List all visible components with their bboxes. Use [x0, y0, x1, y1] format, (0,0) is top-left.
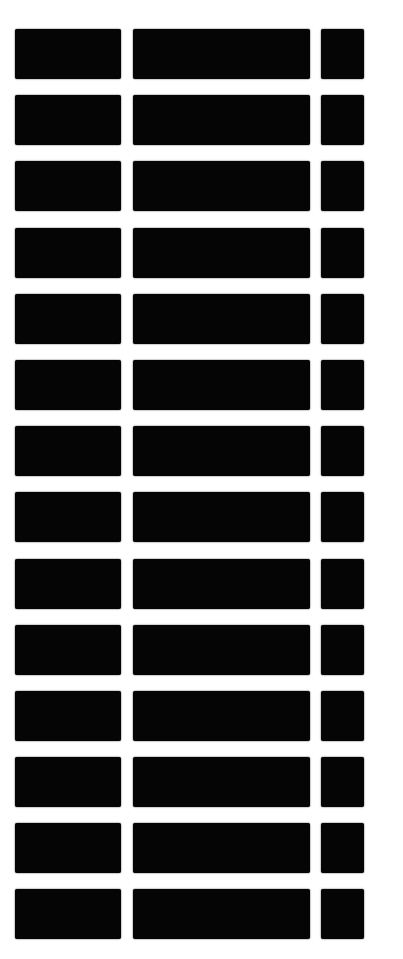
- block-row: [15, 823, 364, 873]
- block-row: [15, 559, 364, 609]
- black-block: [133, 625, 310, 675]
- black-block: [15, 360, 121, 410]
- black-block: [133, 228, 310, 278]
- black-block: [321, 426, 364, 476]
- black-block: [133, 294, 310, 344]
- black-block: [15, 29, 121, 79]
- black-block: [133, 360, 310, 410]
- black-block: [321, 823, 364, 873]
- black-block: [133, 95, 310, 145]
- block-row: [15, 29, 364, 79]
- black-block: [133, 757, 310, 807]
- black-block: [321, 95, 364, 145]
- block-row: [15, 294, 364, 344]
- block-row: [15, 625, 364, 675]
- black-block: [15, 161, 121, 211]
- black-block: [15, 559, 121, 609]
- black-block: [321, 625, 364, 675]
- block-row: [15, 691, 364, 741]
- black-block: [321, 492, 364, 542]
- black-block: [133, 426, 310, 476]
- black-block: [15, 757, 121, 807]
- black-block: [321, 757, 364, 807]
- block-row: [15, 95, 364, 145]
- block-row: [15, 228, 364, 278]
- block-row: [15, 889, 364, 939]
- black-block: [133, 823, 310, 873]
- black-block: [15, 228, 121, 278]
- black-block: [15, 889, 121, 939]
- black-block: [133, 161, 310, 211]
- black-block: [133, 492, 310, 542]
- block-row: [15, 492, 364, 542]
- black-block: [15, 426, 121, 476]
- block-row: [15, 161, 364, 211]
- block-row: [15, 426, 364, 476]
- black-block: [133, 559, 310, 609]
- black-block: [321, 294, 364, 344]
- black-block: [321, 29, 364, 79]
- block-grid: [15, 29, 364, 956]
- block-row: [15, 360, 364, 410]
- black-block: [15, 823, 121, 873]
- black-block: [321, 228, 364, 278]
- black-block: [321, 360, 364, 410]
- black-block: [321, 691, 364, 741]
- black-block: [15, 691, 121, 741]
- black-block: [15, 625, 121, 675]
- black-block: [133, 691, 310, 741]
- black-block: [15, 294, 121, 344]
- black-block: [133, 889, 310, 939]
- black-block: [15, 95, 121, 145]
- black-block: [15, 492, 121, 542]
- block-row: [15, 757, 364, 807]
- black-block: [321, 889, 364, 939]
- black-block: [321, 559, 364, 609]
- black-block: [321, 161, 364, 211]
- black-block: [133, 29, 310, 79]
